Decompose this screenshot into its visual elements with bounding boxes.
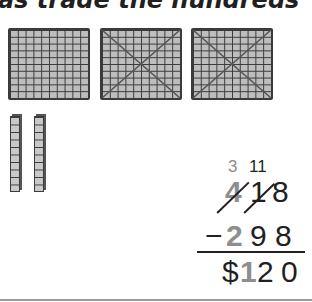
minus-sign: − bbox=[205, 220, 223, 252]
subtrahend-tens: 9 bbox=[250, 220, 267, 252]
result-tens: 2 bbox=[257, 256, 274, 288]
page-divider bbox=[0, 299, 312, 301]
minuend-ones: 8 bbox=[272, 176, 289, 208]
subtraction-problem: 3 11 4 1 8 − 2 9 8 $ 1 2 0 bbox=[0, 0, 312, 302]
regroup-hundreds: 3 bbox=[228, 158, 237, 176]
result-ones: 0 bbox=[281, 256, 298, 288]
subtrahend-hundreds: 2 bbox=[226, 220, 243, 252]
result-hundreds: 1 bbox=[240, 256, 257, 288]
result-currency: $ bbox=[222, 256, 239, 288]
sum-rule bbox=[197, 251, 305, 253]
subtrahend-ones: 8 bbox=[275, 220, 292, 252]
regroup-tens: 11 bbox=[249, 158, 267, 176]
